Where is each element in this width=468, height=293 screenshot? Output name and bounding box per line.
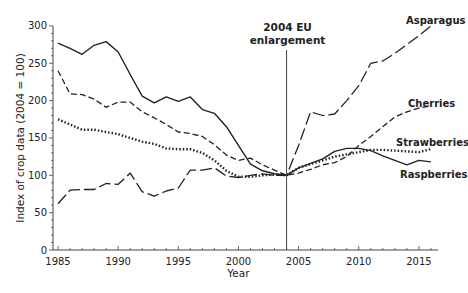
x-tick-label: 2005 bbox=[286, 256, 311, 267]
series-line-asparagus bbox=[58, 26, 431, 204]
y-tick-label: 0 bbox=[41, 245, 47, 256]
annotation-line-2: enlargement bbox=[250, 34, 326, 46]
series-label-cherries: Cherries bbox=[408, 98, 455, 109]
annotation-line-1: 2004 EU bbox=[263, 21, 312, 33]
x-tick-label: 2000 bbox=[226, 256, 251, 267]
x-tick-label: 2010 bbox=[346, 256, 371, 267]
x-axis: 1985199019952000200520102015 bbox=[45, 246, 438, 267]
x-axis-title: Year bbox=[226, 267, 250, 279]
x-tick-label: 1985 bbox=[45, 256, 70, 267]
y-tick-label: 250 bbox=[28, 58, 47, 69]
x-tick-label: 1990 bbox=[105, 256, 130, 267]
series-layer bbox=[58, 26, 431, 204]
y-axis-title: Index of crop data (2004 = 100) bbox=[14, 53, 26, 222]
series-label-asparagus: Asparagus bbox=[406, 15, 466, 26]
line-chart: 050100150200250300 198519901995200020052… bbox=[0, 0, 468, 293]
series-label-raspberries: Raspberries bbox=[400, 169, 468, 180]
series-line-cherries bbox=[58, 71, 431, 176]
y-axis: 050100150200250300 bbox=[28, 20, 53, 255]
x-tick-label: 1995 bbox=[166, 256, 191, 267]
y-tick-label: 300 bbox=[28, 20, 47, 31]
series-line-raspberries bbox=[58, 42, 431, 176]
series-line-strawberries bbox=[58, 119, 431, 177]
series-label-strawberries: Strawberries bbox=[396, 137, 468, 148]
x-tick-label: 2015 bbox=[406, 256, 431, 267]
y-tick-label: 50 bbox=[34, 207, 47, 218]
y-tick-label: 200 bbox=[28, 95, 47, 106]
y-tick-label: 100 bbox=[28, 170, 47, 181]
y-tick-label: 150 bbox=[28, 132, 47, 143]
